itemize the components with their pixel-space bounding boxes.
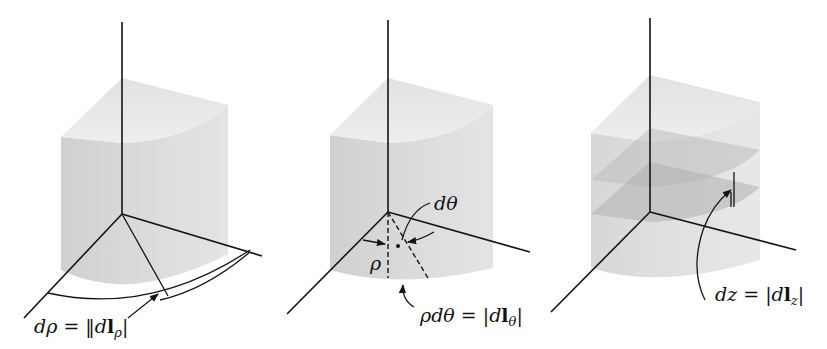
figure-rho: dρ = ‖dlρ| bbox=[24, 22, 262, 340]
rho-radius-label: ρ bbox=[369, 252, 382, 274]
rho-label: dρ = ‖dlρ| bbox=[34, 315, 128, 340]
figure-theta: dθ ρ ρdθ = |dlθ| bbox=[287, 20, 530, 329]
dz-label: dz = |dlz| bbox=[715, 283, 804, 308]
cylindrical-differential-lengths-diagram: dρ = ‖dlρ| dθ ρ ρdθ = |dlθ| bbox=[0, 0, 827, 349]
figure-z: dz = |dlz| bbox=[551, 18, 804, 312]
rho-dtheta-label: ρdθ = |dlθ| bbox=[419, 304, 523, 329]
point-marker bbox=[396, 244, 400, 248]
dtheta-label: dθ bbox=[434, 192, 458, 214]
rho-dtheta-pointer-arrow bbox=[403, 285, 414, 307]
